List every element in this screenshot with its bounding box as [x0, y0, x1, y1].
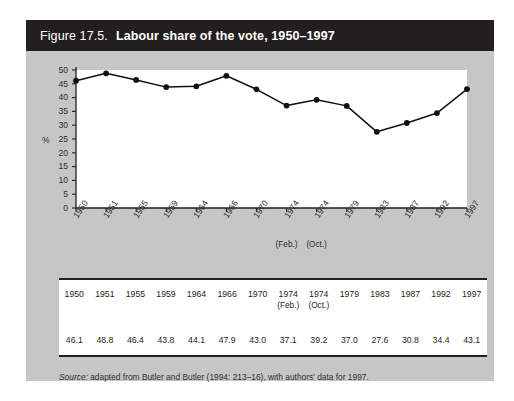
- figure-title-bar: Figure 17.5. Labour share of the vote, 1…: [26, 20, 494, 51]
- data-point: [344, 103, 350, 109]
- table-header-row: 19501951195519591964196619701974(Feb.)19…: [59, 280, 487, 325]
- table-value-cell: 30.8: [395, 325, 426, 355]
- table-header-cell: 1964: [181, 280, 212, 325]
- table-value-cell: 37.0: [334, 325, 365, 355]
- source-text: adapted from Butler and Butler (1994: 21…: [88, 372, 369, 382]
- data-point: [103, 70, 109, 76]
- table-header-cell: 1950: [59, 280, 90, 325]
- data-point: [314, 97, 320, 103]
- figure-number: Figure 17.5.: [40, 29, 108, 43]
- y-tick-label: 45: [46, 80, 68, 89]
- y-tick-label: 40: [46, 93, 68, 102]
- y-tick-label: 10: [46, 176, 68, 185]
- chart-axes: [76, 67, 467, 208]
- table-header-year: 1970: [248, 289, 267, 299]
- table-value-cell: 47.9: [212, 325, 243, 355]
- table-value-cell: 39.2: [304, 325, 335, 355]
- figure-title: Labour share of the vote, 1950–1997: [116, 29, 335, 43]
- figure-container: Figure 17.5. Labour share of the vote, 1…: [26, 20, 494, 381]
- data-point: [193, 83, 199, 89]
- table-value-cell: 43.8: [151, 325, 182, 355]
- table-header-cell: 1959: [151, 280, 182, 325]
- table-header-year: 1974: [279, 289, 298, 299]
- data-point: [404, 120, 410, 126]
- y-tick-label: 25: [46, 135, 68, 144]
- table-header-year: 1979: [340, 289, 359, 299]
- table-value-cell: 43.0: [242, 325, 273, 355]
- table-header-cell: 1974(Feb.): [273, 280, 304, 325]
- data-table: 19501951195519591964196619701974(Feb.)19…: [59, 280, 487, 355]
- y-tick-label: 5: [46, 190, 68, 199]
- data-point: [73, 78, 79, 84]
- y-tick-label: 20: [46, 149, 68, 158]
- data-point: [434, 110, 440, 116]
- table-header-year: 1966: [217, 289, 236, 299]
- table-header-cell: 1997: [456, 280, 487, 325]
- data-table-container: 19501951195519591964196619701974(Feb.)19…: [59, 278, 487, 357]
- table-header-year: 1959: [156, 289, 175, 299]
- table-header-sublabel: (Feb.): [273, 300, 304, 310]
- table-header-sublabel: (Oct.): [304, 300, 335, 310]
- table-header-cell: 1992: [426, 280, 457, 325]
- table-value-cell: 43.1: [456, 325, 487, 355]
- table-header-year: 1983: [370, 289, 389, 299]
- table-value-cell: 44.1: [181, 325, 212, 355]
- data-point: [464, 86, 470, 92]
- table-header-cell: 1979: [334, 280, 365, 325]
- table-header-cell: 1974(Oct.): [304, 280, 335, 325]
- table-value-cell: 37.1: [273, 325, 304, 355]
- data-point: [163, 84, 169, 90]
- table-header-cell: 1951: [90, 280, 121, 325]
- table-value-cell: 46.4: [120, 325, 151, 355]
- y-tick-label: 15: [46, 162, 68, 171]
- table-header-year: 1950: [65, 289, 84, 299]
- data-point: [284, 103, 290, 109]
- table-header-cell: 1970: [242, 280, 273, 325]
- table-value-cell: 34.4: [426, 325, 457, 355]
- table-header-cell: 1987: [395, 280, 426, 325]
- table-header-year: 1974: [309, 289, 328, 299]
- table-value-cell: 46.1: [59, 325, 90, 355]
- y-tick-label: 50: [46, 66, 68, 75]
- data-point: [223, 73, 229, 79]
- table-header-year: 1992: [431, 289, 450, 299]
- table-header-year: 1964: [187, 289, 206, 299]
- table-header-year: 1987: [401, 289, 420, 299]
- table-value-cell: 48.8: [90, 325, 121, 355]
- table-header-year: 1955: [126, 289, 145, 299]
- chart-area: % 05101520253035404550195019511955195919…: [26, 51, 494, 247]
- data-point: [254, 86, 260, 92]
- y-tick-label: 35: [46, 107, 68, 116]
- table-header-cell: 1966: [212, 280, 243, 325]
- x-tick-sublabel: (Oct.): [301, 241, 333, 249]
- y-tick-label: 30: [46, 121, 68, 130]
- table-header-cell: 1983: [365, 280, 396, 325]
- y-tick-label: 0: [46, 204, 68, 213]
- table-value-row: 46.148.846.443.844.147.943.037.139.237.0…: [59, 325, 487, 355]
- source-label: Source:: [59, 372, 88, 382]
- table-header-year: 1951: [95, 289, 114, 299]
- table-header-cell: 1955: [120, 280, 151, 325]
- source-note: Source: adapted from Butler and Butler (…: [59, 372, 369, 382]
- data-point: [374, 129, 380, 135]
- table-header-year: 1997: [462, 289, 481, 299]
- table-value-cell: 27.6: [365, 325, 396, 355]
- x-tick-sublabel: (Feb.): [271, 241, 303, 249]
- data-point: [133, 77, 139, 83]
